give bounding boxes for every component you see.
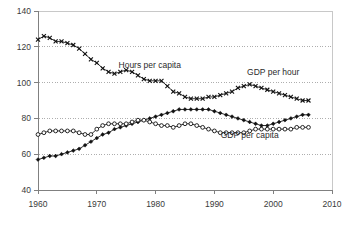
data-point [124, 122, 128, 126]
data-point [213, 129, 217, 133]
data-point [295, 125, 299, 129]
data-point [189, 122, 193, 126]
data-point [36, 133, 40, 137]
series-label-0: Hours per capita [119, 60, 182, 70]
data-point [113, 122, 117, 126]
data-point [148, 120, 152, 124]
xtick-label-1980: 1980 [146, 199, 165, 209]
data-point [165, 124, 169, 128]
data-point [42, 131, 46, 135]
data-point [118, 122, 122, 126]
data-point [71, 129, 75, 133]
data-point [89, 133, 93, 137]
data-point [195, 124, 199, 128]
ytick-label-60: 60 [22, 149, 32, 159]
ytick-label-80: 80 [22, 113, 32, 123]
data-point [48, 129, 52, 133]
data-point [77, 131, 81, 135]
xtick-label-1970: 1970 [87, 199, 106, 209]
data-point [95, 127, 99, 131]
ytick-label-40: 40 [22, 185, 32, 195]
data-point [201, 125, 205, 129]
ytick-label-120: 120 [17, 42, 31, 52]
data-point [154, 122, 158, 126]
data-point [177, 124, 181, 128]
plot-area-frame [38, 11, 332, 190]
xtick-label-2000: 2000 [264, 199, 283, 209]
data-point [66, 129, 70, 133]
data-point [107, 122, 111, 126]
xtick-label-2010: 2010 [323, 199, 342, 209]
data-point [207, 127, 211, 131]
series-label-2: GDP per capita [221, 130, 279, 140]
data-point [60, 129, 64, 133]
ytick-label-140: 140 [17, 6, 31, 16]
xtick-label-1990: 1990 [205, 199, 224, 209]
data-point [130, 120, 134, 124]
data-point [183, 122, 187, 126]
data-point [142, 118, 146, 122]
data-point [136, 118, 140, 122]
data-point [83, 133, 87, 137]
data-point [101, 124, 105, 128]
data-point [307, 125, 311, 129]
line-chart: 406080100120140196019701980199020002010H… [0, 0, 346, 225]
chart-container: 406080100120140196019701980199020002010H… [0, 0, 346, 225]
data-point [283, 127, 287, 131]
data-point [54, 129, 58, 133]
series-label-1: GDP per hour [247, 67, 299, 77]
data-point [301, 125, 305, 129]
data-point [171, 125, 175, 129]
data-point [160, 124, 164, 128]
data-point [289, 127, 293, 131]
xtick-label-1960: 1960 [29, 199, 48, 209]
ytick-label-100: 100 [17, 78, 31, 88]
